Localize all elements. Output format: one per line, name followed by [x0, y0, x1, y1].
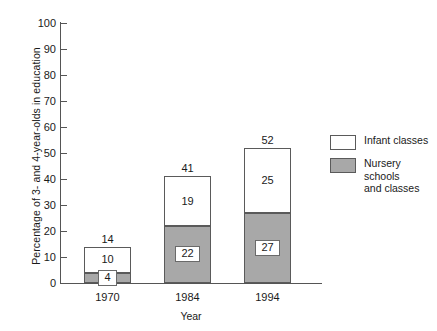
bar-value-infant-1970: 10 — [101, 254, 113, 265]
bar-total-label-1984: 41 — [164, 162, 211, 174]
bar-value-nursery-1970: 4 — [98, 270, 116, 286]
legend-item-nursery-schools: Nursery schools and classes — [330, 157, 437, 195]
bar-total-label-1970: 14 — [84, 233, 131, 245]
legend-label-nursery-schools: Nursery schools and classes — [364, 157, 437, 195]
y-axis-tick — [61, 101, 67, 102]
bar-segment-nursery-1970: 4 — [84, 273, 131, 283]
y-axis-tick — [61, 49, 67, 50]
y-axis-tick — [61, 283, 67, 284]
x-axis-category-label-1994: 1994 — [232, 291, 303, 303]
legend-label-infant-classes: Infant classes — [364, 134, 428, 147]
bar-segment-infant-1994: 25 — [244, 148, 291, 213]
y-axis-tick-label: 80 — [10, 69, 56, 81]
y-axis-tick — [61, 23, 67, 24]
y-axis-tick-label: 30 — [10, 199, 56, 211]
bar-value-infant-1994: 25 — [261, 175, 273, 186]
y-axis-tick-label: 10 — [10, 251, 56, 263]
bar-value-nursery-1984: 22 — [175, 246, 199, 262]
bar-value-nursery-1994: 27 — [255, 240, 279, 256]
bar-group-1970: 10414 — [84, 247, 131, 283]
x-axis-category-label-1984: 1984 — [152, 291, 223, 303]
bar-total-label-1994: 52 — [244, 134, 291, 146]
y-axis-tick — [61, 127, 67, 128]
bar-segment-nursery-1994: 27 — [244, 213, 291, 283]
y-axis-tick-label: 50 — [10, 147, 56, 159]
x-axis-title: Year — [60, 310, 322, 322]
y-axis-tick-label: 40 — [10, 173, 56, 185]
y-axis-tick — [61, 257, 67, 258]
y-axis-tick-label: 20 — [10, 225, 56, 237]
y-axis-tick — [61, 231, 67, 232]
bar-segment-infant-1984: 19 — [164, 176, 211, 225]
legend-swatch-nursery-schools — [330, 158, 356, 173]
legend-item-infant-classes: Infant classes — [330, 134, 437, 150]
y-axis-tick-label: 90 — [10, 43, 56, 55]
y-axis-tick — [61, 75, 67, 76]
y-axis-tick-label: 100 — [10, 17, 56, 29]
y-axis-tick — [61, 153, 67, 154]
y-axis-tick-label: 60 — [10, 121, 56, 133]
y-axis-tick-label: 70 — [10, 95, 56, 107]
bar-value-infant-1984: 19 — [181, 196, 193, 207]
y-axis-tick-label: 0 — [10, 277, 56, 289]
y-axis-tick — [61, 205, 67, 206]
legend: Infant classes Nursery schools and class… — [330, 134, 437, 202]
bar-chart: Percentage of 3- and 4-year-olds in educ… — [0, 0, 437, 331]
bar-group-1984: 192241 — [164, 176, 211, 283]
bar-segment-nursery-1984: 22 — [164, 226, 211, 283]
bar-group-1994: 252752 — [244, 148, 291, 283]
legend-swatch-infant-classes — [330, 135, 356, 150]
bar-segment-infant-1970: 10 — [84, 247, 131, 273]
x-axis-category-label-1970: 1970 — [72, 291, 143, 303]
y-axis-tick — [61, 179, 67, 180]
